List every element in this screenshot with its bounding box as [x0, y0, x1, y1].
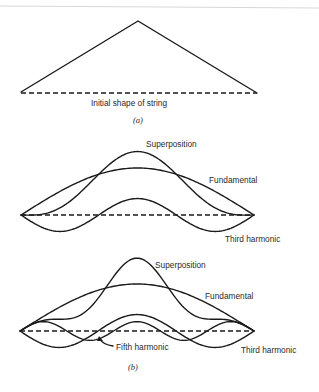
label-superposition-1: Superposition: [146, 139, 197, 149]
label-fundamental-1: Fundamental: [209, 175, 258, 185]
label-fundamental-2: Fundamental: [205, 291, 254, 301]
initial-string-shape: [21, 21, 257, 93]
panel-a: Initial shape of string (a): [21, 21, 257, 125]
caption-b: (b): [128, 362, 138, 372]
standing-wave-figure: Initial shape of string (a) Superpositio…: [0, 0, 319, 392]
caption-a: (a): [133, 115, 143, 125]
label-superposition-2: Superposition: [155, 260, 206, 270]
label-initial-shape: Initial shape of string: [91, 98, 167, 108]
label-fifth-harmonic-2: Fifth harmonic: [116, 342, 169, 352]
panel-b-bottom: Superposition Fundamental Fifth harmonic…: [20, 258, 296, 372]
label-third-harmonic-2: Third harmonic: [241, 345, 296, 355]
panel-b-top: Superposition Fundamental Third harmonic: [21, 139, 280, 244]
page-edge-line: [0, 6, 319, 8]
label-third-harmonic-1: Third harmonic: [225, 234, 280, 244]
